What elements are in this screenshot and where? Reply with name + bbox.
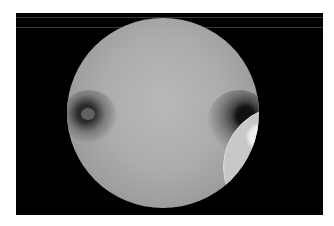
image-frame: [16, 13, 323, 215]
left-ring-center: [81, 108, 95, 120]
microscope-field: [67, 18, 259, 208]
